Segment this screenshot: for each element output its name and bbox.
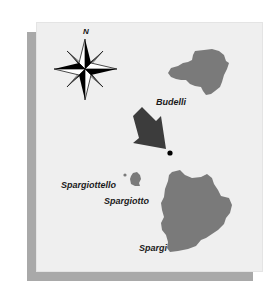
label-spargiottello: Spargiottello bbox=[61, 180, 116, 190]
label-spargiotto: Spargiotto bbox=[104, 196, 149, 206]
location-dot-icon bbox=[167, 150, 172, 155]
island-spargiottello bbox=[123, 173, 126, 176]
island-spargi bbox=[161, 170, 232, 252]
compass-rose-icon bbox=[54, 39, 117, 100]
island-spargiotto bbox=[130, 172, 141, 186]
map-canvas bbox=[0, 0, 280, 298]
label-spargi: Spargi bbox=[139, 243, 167, 253]
location-arrow-icon bbox=[133, 107, 166, 149]
label-budelli: Budelli bbox=[156, 97, 186, 107]
island-budelli bbox=[168, 49, 229, 95]
compass-north-label: N bbox=[83, 27, 89, 36]
